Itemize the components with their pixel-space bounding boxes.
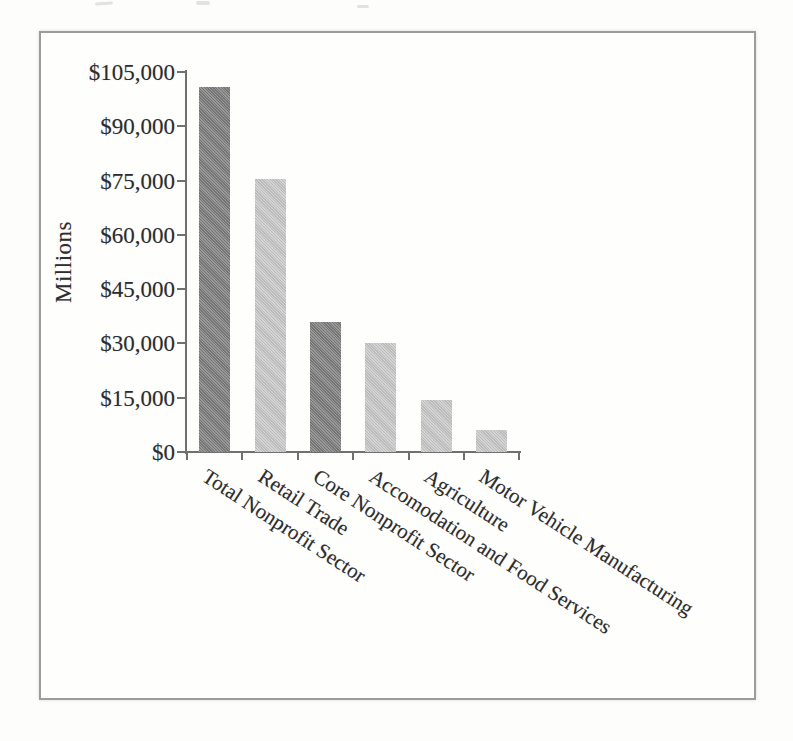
x-tick-mark <box>352 452 354 460</box>
y-axis-line <box>185 70 187 454</box>
y-tick-mark <box>177 288 185 290</box>
x-tick-mark <box>518 452 520 460</box>
y-tick-mark <box>177 451 185 453</box>
bar-core-nonprofit-sector <box>310 322 341 452</box>
x-tick-mark <box>297 452 299 460</box>
bar-retail-trade <box>255 179 286 452</box>
bar-chart: $0$15,000$30,000$45,000$60,000$75,000$90… <box>0 0 793 741</box>
x-tick-mark <box>186 452 188 460</box>
bar-agriculture <box>421 400 452 452</box>
y-tick-label: $75,000 <box>55 168 175 195</box>
y-tick-mark <box>177 397 185 399</box>
y-tick-label: $60,000 <box>55 222 175 249</box>
y-tick-mark <box>177 71 185 73</box>
y-tick-mark <box>177 234 185 236</box>
x-tick-mark <box>241 452 243 460</box>
bar-motor-vehicle-manufacturing <box>476 430 507 452</box>
y-tick-label: $90,000 <box>55 113 175 140</box>
bar-accomodation-and-food-services <box>365 343 396 452</box>
y-tick-mark <box>177 125 185 127</box>
y-tick-label: $45,000 <box>55 276 175 303</box>
x-tick-mark <box>408 452 410 460</box>
x-category-label-motor-vehicle-manufacturing: Motor Vehicle Manufacturing <box>475 464 699 621</box>
y-tick-label: $15,000 <box>55 385 175 412</box>
y-tick-label: $0 <box>55 439 175 466</box>
y-tick-mark <box>177 342 185 344</box>
y-tick-label: $30,000 <box>55 330 175 357</box>
scanned-page: Millions $0$15,000$30,000$45,000$60,000$… <box>0 0 793 741</box>
x-tick-mark <box>463 452 465 460</box>
y-tick-label: $105,000 <box>55 59 175 86</box>
y-tick-mark <box>177 180 185 182</box>
bar-total-nonprofit-sector <box>199 87 230 453</box>
